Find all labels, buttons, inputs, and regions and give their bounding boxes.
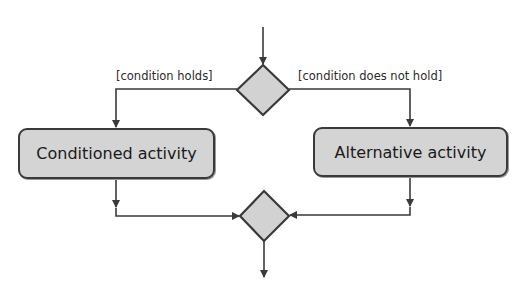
edge-conditioned-to-merge bbox=[116, 208, 239, 216]
activity-conditioned-label: Conditioned activity bbox=[36, 144, 196, 163]
edge-alternative-to-merge bbox=[290, 207, 410, 215]
activity-alternative-label: Alternative activity bbox=[335, 143, 487, 162]
activity-conditioned[interactable]: Conditioned activity bbox=[18, 128, 215, 179]
edge-decision-to-alternative bbox=[289, 89, 410, 126]
guard-condition-does-not-hold: [condition does not hold] bbox=[298, 69, 442, 83]
merge-node-diamond[interactable] bbox=[240, 191, 289, 241]
guard-condition-holds: [condition holds] bbox=[116, 69, 213, 83]
edge-decision-to-conditioned bbox=[116, 89, 237, 127]
activity-alternative[interactable]: Alternative activity bbox=[313, 127, 508, 177]
decision-node-diamond[interactable] bbox=[237, 65, 289, 115]
